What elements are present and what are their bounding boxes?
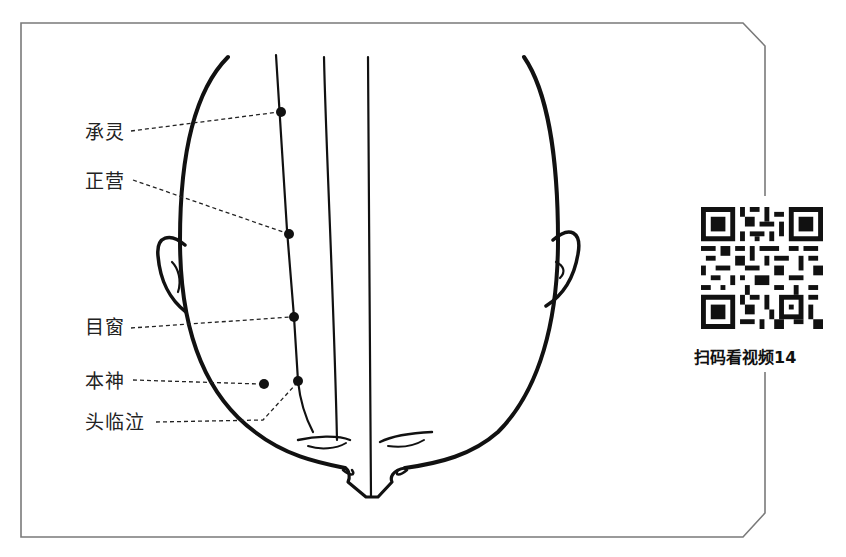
acupoint-toulinqi: [293, 376, 303, 386]
acupoint-muchuang: [289, 312, 299, 322]
meridian-lines: [276, 55, 371, 497]
acupoint-benshen: [259, 379, 269, 389]
qr-code-icon[interactable]: [701, 207, 823, 329]
label-chengling: 承灵: [85, 121, 125, 143]
label-zhengying: 正营: [85, 170, 125, 192]
acupoint-zhengying: [284, 229, 294, 239]
label-benshen: 本神: [85, 370, 125, 392]
label-toulinqi: 头临泣: [85, 411, 145, 433]
frame-border: [21, 23, 765, 537]
qr-caption: 扫码看视频14: [694, 344, 834, 368]
label-muchuang: 目窗: [85, 316, 125, 338]
leader-lines: [131, 112, 296, 422]
diagram-stage: 承灵 正营 目窗 本神 头临泣: [0, 0, 846, 557]
acupoint-chengling: [276, 107, 286, 117]
